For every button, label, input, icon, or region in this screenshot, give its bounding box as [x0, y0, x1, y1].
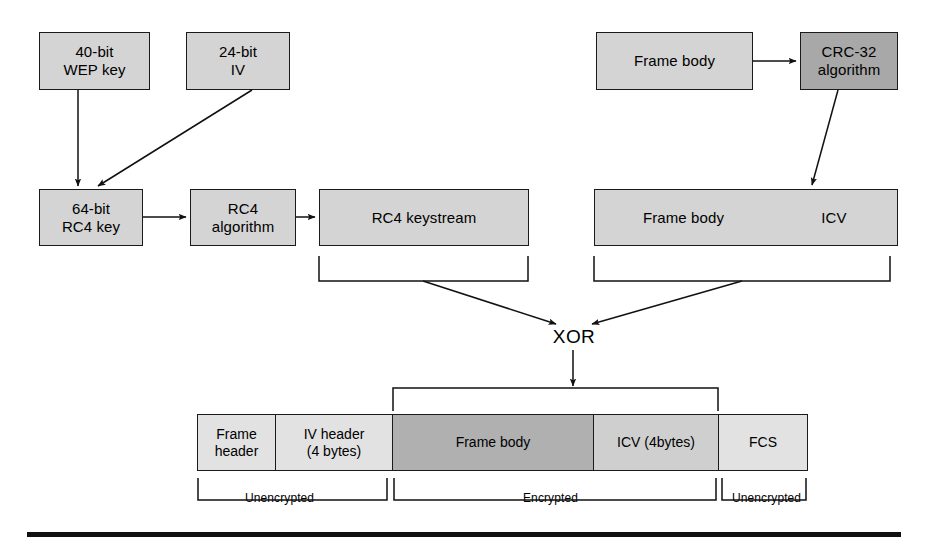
- box-rc4-keystream: RC4 keystream: [319, 189, 529, 246]
- box-rc4-key: 64-bit RC4 key: [39, 189, 143, 246]
- frame-cell-frame-body: Frame body: [392, 414, 594, 471]
- frame-cell-fcs: FCS: [718, 414, 808, 471]
- box-rc4-algorithm-label: RC4 algorithm: [212, 200, 275, 235]
- arrow-keystream-to-xor: [423, 281, 556, 324]
- bracket-encrypted-top: [393, 388, 718, 411]
- diagram-canvas: 40-bit WEP key 24-bit IV 64-bit RC4 key …: [0, 0, 927, 554]
- frame-cell-frame-header-label: Frame header: [215, 426, 259, 460]
- xor-operator-label: XOR: [547, 326, 601, 348]
- frame-cell-frame-header: Frame header: [197, 414, 276, 471]
- bottom-rule: [27, 532, 901, 537]
- frame-cell-icv: ICV (4bytes): [593, 414, 719, 471]
- box-frame-body-input-label: Frame body: [634, 52, 715, 70]
- box-wep-key-label: 40-bit WEP key: [63, 43, 125, 78]
- arrow-framebodyicv-to-xor: [592, 281, 742, 324]
- bracket-keystream: [319, 256, 528, 281]
- arrow-crc32-to-icv: [812, 90, 838, 185]
- box-frame-body-input: Frame body: [596, 32, 753, 90]
- frame-cell-iv-header: IV header (4 bytes): [275, 414, 393, 471]
- box-rc4-algorithm: RC4 algorithm: [190, 189, 296, 246]
- box-wep-key: 40-bit WEP key: [39, 32, 150, 90]
- frame-cell-iv-header-label: IV header (4 bytes): [304, 426, 365, 460]
- bracket-framebody-icv: [594, 256, 890, 281]
- box-crc32-algorithm-label: CRC-32 algorithm: [818, 43, 881, 78]
- box-frame-body-with-icv-label: Frame body: [595, 209, 772, 227]
- box-iv-label: 24-bit IV: [219, 43, 257, 78]
- box-icv-label: ICV: [771, 209, 897, 227]
- frame-cell-fcs-label: FCS: [749, 434, 777, 451]
- box-frame-body-with-icv: Frame body ICV: [594, 189, 898, 246]
- box-rc4-keystream-label: RC4 keystream: [372, 209, 477, 227]
- box-rc4-key-label: 64-bit RC4 key: [62, 200, 120, 235]
- bracket-label-unencrypted-left: Unencrypted: [240, 491, 319, 505]
- frame-cell-frame-body-label: Frame body: [456, 434, 531, 451]
- frame-cell-icv-label: ICV (4bytes): [617, 434, 695, 451]
- arrow-iv-to-rc4key: [98, 90, 252, 186]
- box-iv: 24-bit IV: [186, 32, 290, 90]
- bracket-label-encrypted: Encrypted: [518, 491, 583, 505]
- box-crc32-algorithm: CRC-32 algorithm: [800, 32, 898, 90]
- bracket-label-unencrypted-right: Unencrypted: [727, 491, 806, 505]
